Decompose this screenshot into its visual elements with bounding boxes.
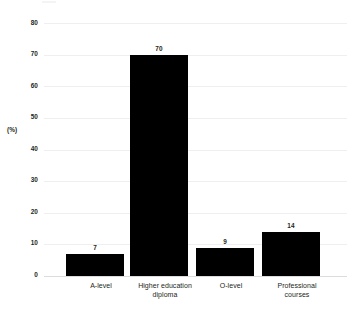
- bar-value-a-level: 7: [66, 245, 124, 251]
- y-tick-label-20: 20: [12, 209, 38, 215]
- gridline-20: [44, 213, 347, 214]
- gridline-80: [44, 23, 347, 24]
- y-tick-label-60: 60: [12, 83, 38, 89]
- x-tick-label-professional-courses: Professional courses: [252, 281, 342, 300]
- bar-higher-education-diploma[interactable]: [130, 55, 188, 276]
- x-tick-line-1: Professional: [252, 281, 342, 290]
- bar-chart-figure: (%) 80 70 60 50 40 30 20 10 0 7 70 9 14 …: [0, 0, 364, 312]
- y-tick-label-70: 70: [12, 51, 38, 57]
- x-tick-line-2: diploma: [120, 290, 210, 299]
- y-tick-label-80: 80: [12, 20, 38, 26]
- y-tick-label-10: 10: [12, 240, 38, 246]
- gridline-70: [44, 55, 347, 56]
- scan-artifact: [42, 1, 56, 3]
- bar-o-level[interactable]: [196, 248, 254, 276]
- y-tick-label-0: 0: [12, 272, 38, 278]
- bar-value-o-level: 9: [196, 239, 254, 245]
- y-tick-label-40: 40: [12, 146, 38, 152]
- gridline-30: [44, 181, 347, 182]
- axis-baseline: [44, 276, 347, 277]
- gridline-50: [44, 118, 347, 119]
- bar-value-professional-courses: 14: [262, 223, 320, 229]
- plot-area: 7 70 9 14: [44, 23, 347, 276]
- y-tick-label-30: 30: [12, 177, 38, 183]
- gridline-60: [44, 86, 347, 87]
- bar-a-level[interactable]: [66, 254, 124, 276]
- bar-professional-courses[interactable]: [262, 232, 320, 276]
- bar-value-higher-education-diploma: 70: [130, 46, 188, 52]
- y-tick-label-50: 50: [12, 114, 38, 120]
- gridline-40: [44, 150, 347, 151]
- y-axis-title: (%): [7, 127, 17, 133]
- x-tick-line-2: courses: [252, 290, 342, 299]
